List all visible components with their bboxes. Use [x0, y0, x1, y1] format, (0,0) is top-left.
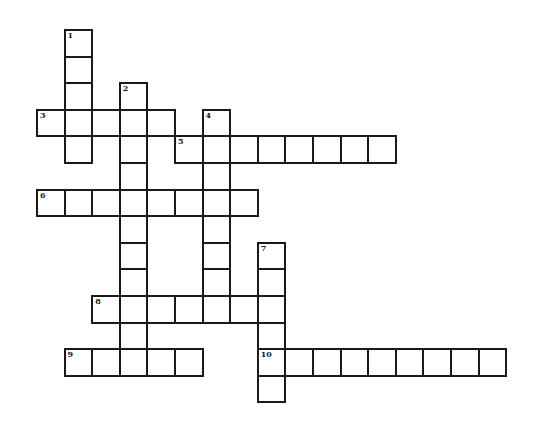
- crossword-cell[interactable]: [367, 348, 397, 377]
- crossword-cell[interactable]: [284, 348, 314, 377]
- crossword-cell[interactable]: [395, 348, 425, 377]
- crossword-cell[interactable]: [119, 135, 149, 164]
- crossword-cell[interactable]: [119, 322, 149, 351]
- clue-number: 2: [123, 84, 129, 93]
- clue-number: 6: [40, 191, 46, 200]
- crossword-cell[interactable]: [119, 242, 149, 271]
- crossword-cell[interactable]: [257, 295, 287, 324]
- crossword-cell[interactable]: 1: [64, 29, 94, 58]
- crossword-cell[interactable]: [340, 135, 370, 164]
- crossword-cell[interactable]: [64, 82, 94, 111]
- crossword-cell[interactable]: [91, 109, 121, 138]
- crossword-cell[interactable]: [146, 295, 176, 324]
- crossword-cell[interactable]: [257, 322, 287, 351]
- clue-number: 7: [261, 244, 267, 253]
- crossword-cell[interactable]: [229, 189, 259, 218]
- crossword-cell[interactable]: 10: [257, 348, 287, 377]
- crossword-grid: 12345671089: [0, 0, 537, 432]
- crossword-cell[interactable]: 3: [36, 109, 66, 138]
- crossword-cell[interactable]: [312, 135, 342, 164]
- clue-number: 3: [40, 111, 46, 120]
- crossword-cell[interactable]: [119, 162, 149, 191]
- clue-number: 4: [206, 111, 212, 120]
- clue-number: 5: [178, 137, 184, 146]
- crossword-cell[interactable]: [119, 215, 149, 244]
- crossword-cell[interactable]: [367, 135, 397, 164]
- crossword-cell[interactable]: [119, 348, 149, 377]
- clue-number: 10: [261, 350, 272, 359]
- crossword-cell[interactable]: [64, 109, 94, 138]
- crossword-cell[interactable]: [64, 189, 94, 218]
- clue-number: 1: [68, 31, 74, 40]
- crossword-cell[interactable]: [202, 189, 232, 218]
- crossword-cell[interactable]: [257, 375, 287, 404]
- crossword-cell[interactable]: 9: [64, 348, 94, 377]
- crossword-cell[interactable]: [422, 348, 452, 377]
- crossword-cell[interactable]: 4: [202, 109, 232, 138]
- crossword-cell[interactable]: [202, 268, 232, 297]
- crossword-cell[interactable]: [119, 189, 149, 218]
- clue-number: 9: [68, 350, 74, 359]
- crossword-cell[interactable]: [146, 109, 176, 138]
- crossword-cell[interactable]: 5: [174, 135, 204, 164]
- crossword-cell[interactable]: [174, 189, 204, 218]
- crossword-cell[interactable]: 8: [91, 295, 121, 324]
- crossword-cell[interactable]: [119, 109, 149, 138]
- crossword-cell[interactable]: [64, 135, 94, 164]
- crossword-cell[interactable]: [64, 56, 94, 85]
- crossword-cell[interactable]: [202, 295, 232, 324]
- crossword-cell[interactable]: [202, 162, 232, 191]
- crossword-cell[interactable]: [257, 268, 287, 297]
- clue-number: 8: [95, 297, 101, 306]
- crossword-cell[interactable]: [146, 348, 176, 377]
- crossword-cell[interactable]: [119, 268, 149, 297]
- crossword-cell[interactable]: [174, 348, 204, 377]
- crossword-cell[interactable]: [119, 295, 149, 324]
- crossword-cell[interactable]: [340, 348, 370, 377]
- crossword-cell[interactable]: 2: [119, 82, 149, 111]
- crossword-cell[interactable]: [284, 135, 314, 164]
- crossword-cell[interactable]: [91, 348, 121, 377]
- crossword-cell[interactable]: [91, 189, 121, 218]
- crossword-cell[interactable]: [450, 348, 480, 377]
- crossword-cell[interactable]: [202, 242, 232, 271]
- crossword-cell[interactable]: [229, 295, 259, 324]
- crossword-cell[interactable]: [202, 215, 232, 244]
- crossword-cell[interactable]: 6: [36, 189, 66, 218]
- crossword-cell[interactable]: [257, 135, 287, 164]
- crossword-cell[interactable]: [312, 348, 342, 377]
- crossword-cell[interactable]: [229, 135, 259, 164]
- crossword-cell[interactable]: 7: [257, 242, 287, 271]
- crossword-cell[interactable]: [478, 348, 508, 377]
- crossword-cell[interactable]: [202, 135, 232, 164]
- crossword-cell[interactable]: [174, 295, 204, 324]
- crossword-cell[interactable]: [146, 189, 176, 218]
